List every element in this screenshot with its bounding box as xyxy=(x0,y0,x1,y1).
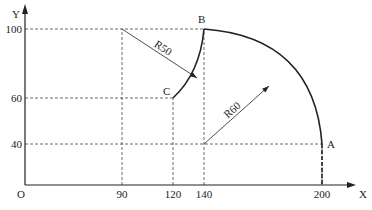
radius-r60-label: R60 xyxy=(221,99,243,120)
x-tick-label: 120 xyxy=(165,188,182,200)
radius-r50-label: R50 xyxy=(152,38,174,58)
arc-r60 xyxy=(204,29,322,144)
y-axis-label: Y xyxy=(12,8,20,20)
y-tick-label: 100 xyxy=(6,23,23,35)
point-label-b: B xyxy=(198,13,205,25)
point-labels: ABC xyxy=(163,13,335,150)
y-axis-arrow-icon xyxy=(22,4,28,14)
radius-r60-leader xyxy=(204,86,269,144)
x-axis-arrow-icon xyxy=(347,182,356,188)
point-label-a: A xyxy=(327,138,335,150)
arcs: R60R50 xyxy=(122,29,322,144)
x-tick-label: 140 xyxy=(196,188,213,200)
origin-label: O xyxy=(17,188,25,200)
x-tick-label: 90 xyxy=(117,188,129,200)
arc-r50 xyxy=(173,29,204,98)
x-tick-label: 200 xyxy=(314,188,331,200)
y-tick-label: 60 xyxy=(11,92,23,104)
toolpath-diagram: X Y O 901201402004060100 R60R50 ABC xyxy=(0,0,372,210)
radius-r50-leader xyxy=(122,29,197,78)
arrowhead-icon xyxy=(190,72,197,78)
x-axis-label: X xyxy=(359,188,367,200)
point-label-c: C xyxy=(163,85,170,97)
y-tick-label: 40 xyxy=(11,138,23,150)
